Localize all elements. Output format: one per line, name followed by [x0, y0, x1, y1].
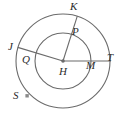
point-label-h: H: [59, 66, 67, 77]
point-label-s: S: [13, 90, 19, 101]
point-label-j: J: [8, 41, 13, 52]
radius-segment-hk: [63, 16, 77, 61]
point-label-p: P: [72, 26, 79, 37]
point-dot-s: [25, 94, 28, 97]
point-label-k: K: [70, 1, 77, 12]
point-label-m: M: [86, 60, 95, 71]
figure-canvas: [0, 0, 124, 119]
point-label-t: T: [107, 52, 113, 63]
geometry-figure: K P J Q T M H S: [0, 0, 124, 119]
center-point-dot-h: [61, 59, 65, 63]
point-label-q: Q: [22, 54, 30, 65]
